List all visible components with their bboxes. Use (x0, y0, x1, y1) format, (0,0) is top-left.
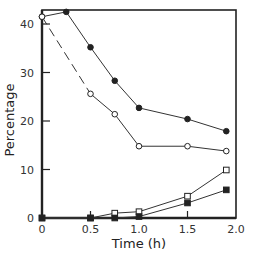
y-tick-label: 40 (20, 18, 34, 31)
data-point (112, 78, 118, 84)
y-tick-label: 10 (20, 164, 34, 177)
plot-frame (42, 10, 236, 218)
series-open-circles (39, 14, 229, 154)
line-chart: 00.51.01.52.0010203040 Time (h) Percenta… (0, 0, 264, 258)
data-point (112, 215, 118, 221)
x-axis-title: Time (h) (111, 236, 166, 251)
y-tick-label: 0 (27, 212, 34, 225)
y-axis-title: Percentage (2, 83, 17, 156)
axis-ticks: 00.51.01.52.0010203040 (20, 18, 245, 236)
x-tick-label: 1.0 (130, 223, 148, 236)
x-tick-label: 0.5 (82, 223, 100, 236)
data-point (39, 215, 45, 221)
series-filled-circles (39, 9, 229, 134)
data-point (88, 44, 94, 50)
data-point (88, 215, 94, 221)
data-point (185, 116, 191, 122)
x-tick-label: 2.0 (227, 223, 245, 236)
data-point (39, 14, 45, 20)
data-point (185, 143, 191, 149)
data-point (136, 143, 142, 149)
data-point (63, 9, 69, 15)
series-open-squares (39, 167, 229, 221)
data-point (224, 128, 230, 134)
data-point (185, 200, 191, 206)
data-point (224, 167, 230, 173)
y-tick-label: 20 (20, 115, 34, 128)
data-point (88, 91, 94, 97)
x-tick-label: 1.5 (179, 223, 197, 236)
y-tick-label: 30 (20, 67, 34, 80)
data-point (185, 193, 191, 199)
data-series (39, 9, 229, 221)
x-tick-label: 0 (39, 223, 46, 236)
series-filled-squares (39, 187, 229, 221)
data-point (136, 214, 142, 220)
data-point (224, 148, 230, 154)
data-point (112, 111, 118, 117)
data-point (224, 187, 230, 193)
data-point (136, 105, 142, 111)
